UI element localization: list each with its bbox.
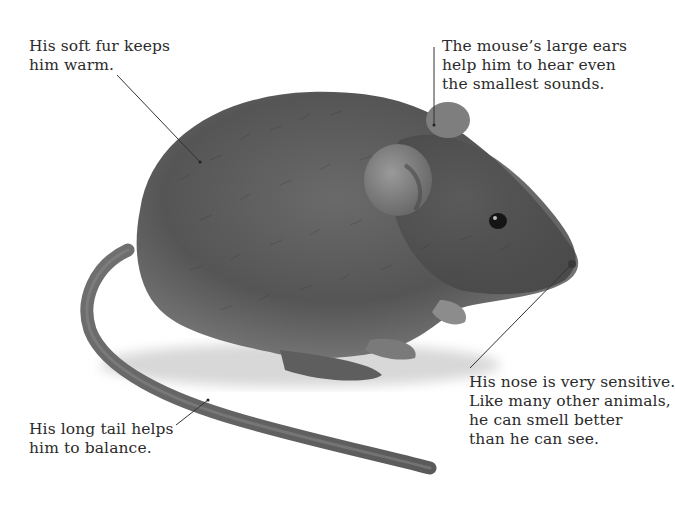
caption-ears-line: The mouse’s large ears [442,37,627,56]
caption-ears: The mouse’s large ears help him to hear … [442,37,627,94]
caption-tail: His long tail helps him to balance. [29,420,174,458]
caption-nose-line: Like many other animals, [469,392,675,411]
leader-line-fur [117,75,200,162]
caption-tail-line: His long tail helps [29,420,174,439]
caption-ears-line: help him to hear even [442,56,627,75]
mouse-eye [489,213,507,229]
caption-fur: His soft fur keeps him warm. [29,37,170,75]
caption-nose: His nose is very sensitive. Like many ot… [469,373,675,449]
mouse-ear-front [364,144,432,216]
caption-ears-line: the smallest sounds. [442,75,627,94]
caption-tail-line: him to balance. [29,439,174,458]
caption-nose-line: he can smell better [469,411,675,430]
mouse-ear-back [426,102,470,138]
caption-fur-line: him warm. [29,56,170,75]
caption-nose-line: than he can see. [469,430,675,449]
caption-fur-line: His soft fur keeps [29,37,170,56]
caption-nose-line: His nose is very sensitive. [469,373,675,392]
